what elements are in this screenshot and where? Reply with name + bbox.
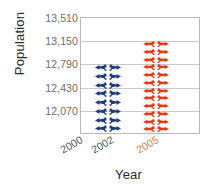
person-icon: [93, 107, 123, 116]
x-axis-title: Year: [0, 167, 223, 182]
person-icon: [93, 124, 123, 133]
person-icon: [93, 89, 123, 98]
pictograph-column-2002: [93, 63, 123, 133]
y-tick-label: 12,790: [45, 58, 78, 70]
x-tick-label-2002: 2002: [89, 133, 116, 155]
y-tick-label: 13,510: [45, 12, 78, 24]
person-icon: [141, 125, 171, 133]
pictograph-chart: Population 13,510 13,150 12,790 12,430 1…: [0, 0, 223, 190]
person-icon: [141, 110, 171, 118]
plot-area: [80, 17, 200, 134]
person-icon: [93, 63, 123, 72]
x-axis-tick-labels: 2000 2002 2005: [0, 134, 223, 166]
y-tick-label: 13,150: [45, 35, 78, 47]
person-icon: [141, 63, 171, 71]
person-icon: [141, 71, 171, 79]
person-icon: [141, 94, 171, 102]
person-icon: [141, 40, 171, 48]
x-tick-label-2005: 2005: [134, 133, 161, 155]
person-icon: [93, 98, 123, 107]
person-icon: [141, 87, 171, 95]
person-icon: [141, 102, 171, 110]
pictograph-column-2005: [141, 40, 171, 133]
person-icon: [141, 56, 171, 64]
gridline: [81, 41, 199, 42]
person-icon: [93, 72, 123, 81]
person-icon: [141, 79, 171, 87]
person-icon: [141, 118, 171, 126]
person-icon: [93, 116, 123, 125]
x-tick-label-2000: 2000: [58, 133, 85, 155]
person-icon: [93, 81, 123, 90]
y-tick-label: 12,430: [45, 82, 78, 94]
y-axis-title: Population: [12, 0, 27, 99]
y-tick-label: 12,070: [45, 105, 78, 117]
person-icon: [141, 48, 171, 56]
